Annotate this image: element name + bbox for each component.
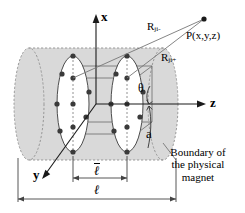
- source-dot: [113, 71, 118, 76]
- y-axis-arrowhead: [42, 170, 50, 179]
- source-dot: [54, 101, 59, 106]
- x-axis-arrowhead: [93, 14, 100, 23]
- source-dot: [70, 53, 75, 58]
- source-dot: [70, 149, 75, 154]
- source-dot: [57, 128, 62, 133]
- boundary-line-1: Boundary of: [155, 146, 241, 158]
- source-dot: [137, 114, 142, 119]
- y-axis-label: y: [33, 168, 40, 181]
- r-ji-plus-label: Rji+: [161, 52, 176, 64]
- theta-label: θ: [138, 82, 144, 94]
- field-point-label: P(x,y,z): [186, 30, 220, 41]
- outer-dim-arrow-right: [170, 197, 176, 202]
- radius-label: a: [146, 127, 152, 140]
- inner-dim-arrow-left: [73, 176, 79, 181]
- r-ji-minus-subscript: ji-: [154, 25, 160, 33]
- outer-length-label: ℓ: [94, 183, 99, 196]
- inner-length-symbol: ℓ: [94, 163, 99, 177]
- source-dot: [59, 71, 64, 76]
- outer-dim-arrow-left: [18, 197, 24, 202]
- magnet-geometry-figure: x z y Rji- Rji+ P(x,y,z) θ a ℓ ℓ Boundar…: [0, 0, 245, 213]
- inner-length-label: ℓ: [94, 163, 99, 177]
- inner-dim-arrow-right: [121, 176, 127, 181]
- source-dot: [124, 149, 129, 154]
- z-axis-label: z: [210, 96, 216, 109]
- boundary-line-3: magnet: [155, 171, 241, 183]
- cylinder-left-cap: [14, 48, 44, 160]
- source-dot: [111, 128, 116, 133]
- source-dot: [70, 124, 75, 129]
- field-point-marker: [201, 16, 206, 21]
- source-dot: [86, 89, 91, 94]
- boundary-annotation: Boundary of the physical magnet: [155, 146, 241, 183]
- r-ji-plus-subscript: ji+: [168, 56, 176, 64]
- source-dot: [124, 124, 129, 129]
- source-dot: [70, 101, 75, 106]
- z-axis-arrowhead: [197, 101, 206, 108]
- x-axis-label: x: [101, 10, 108, 23]
- r-ji-minus-label: Rji-: [147, 21, 161, 33]
- boundary-line-2: the physical: [155, 158, 241, 170]
